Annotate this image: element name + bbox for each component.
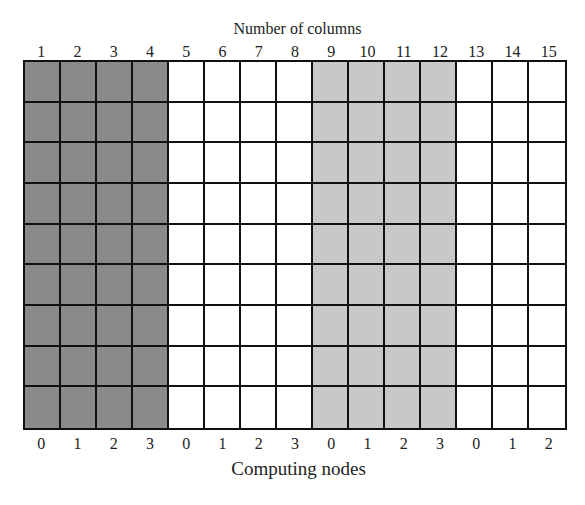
grid-cell [313,62,349,103]
grid-cell [205,62,241,103]
grid-cell [169,62,205,103]
grid-cell [205,143,241,184]
grid-cell [97,387,133,428]
grid-cell [205,387,241,428]
grid-cell [133,103,169,144]
grid-cell [349,62,385,103]
column-number-label: 5 [168,43,204,61]
grid-cell [25,103,61,144]
grid-cell [277,184,313,225]
grid-cell [529,306,565,347]
computing-node-label: 0 [168,435,204,453]
grid-cell [277,225,313,266]
grid-cell [25,347,61,388]
grid-cell [169,143,205,184]
grid-cell [97,62,133,103]
grid-cell [421,225,457,266]
grid-cell [493,103,529,144]
grid-cell [133,225,169,266]
column-number-label: 15 [531,43,567,61]
grid-cell [457,306,493,347]
grid-cell [205,225,241,266]
grid-cell [133,265,169,306]
grid-cell [493,265,529,306]
column-number-label: 13 [458,43,494,61]
grid-cell [385,225,421,266]
grid-cell [529,62,565,103]
grid-cell [421,143,457,184]
grid-cell [349,306,385,347]
grid-cell [205,347,241,388]
grid-cell [313,306,349,347]
computing-node-label: 1 [495,435,531,453]
grid-cell [457,184,493,225]
column-number-label: 8 [277,43,313,61]
grid-cell [277,103,313,144]
grid-cell [133,306,169,347]
grid-cell [349,225,385,266]
column-number-label: 3 [96,43,132,61]
grid-cell [421,184,457,225]
grid-cell [61,184,97,225]
grid-cell [457,265,493,306]
grid-cell [205,265,241,306]
grid-cell [61,387,97,428]
grid-cell [277,143,313,184]
grid-cell [493,225,529,266]
grid-cell [169,265,205,306]
grid-cell [61,103,97,144]
computing-node-label: 3 [132,435,168,453]
grid-cell [25,265,61,306]
grid-cell [349,103,385,144]
grid-cell [493,184,529,225]
grid-cell [421,265,457,306]
column-number-label: 9 [313,43,349,61]
grid-cell [277,265,313,306]
grid-cell [529,265,565,306]
grid-cell [241,265,277,306]
grid-cell [385,265,421,306]
grid-cell [169,103,205,144]
computing-node-label: 0 [313,435,349,453]
grid-cell [25,143,61,184]
computing-node-label: 2 [241,435,277,453]
grid-cell [133,143,169,184]
grid-cell [385,103,421,144]
column-node-grid [23,60,567,430]
grid-cell [457,103,493,144]
column-number-label: 6 [204,43,240,61]
grid-cell [313,387,349,428]
grid-cell [313,184,349,225]
grid-cell [385,184,421,225]
grid-cell [457,387,493,428]
column-number-label: 4 [132,43,168,61]
grid-cell [97,306,133,347]
grid-cell [529,103,565,144]
grid-cell [61,143,97,184]
grid-cell [313,347,349,388]
grid-cell [349,387,385,428]
grid-cell [169,306,205,347]
grid-cell [349,184,385,225]
grid-cell [313,143,349,184]
column-number-label: 11 [386,43,422,61]
computing-node-label: 0 [23,435,59,453]
grid-cell [25,184,61,225]
grid-cell [277,306,313,347]
grid-cell [169,225,205,266]
grid-cell [133,387,169,428]
grid-cell [457,62,493,103]
grid-cell [97,225,133,266]
grid-cell [421,62,457,103]
computing-node-label: 0 [458,435,494,453]
grid-cell [349,347,385,388]
grid-cell [385,387,421,428]
grid-cell [241,387,277,428]
grid-cell [529,143,565,184]
computing-node-label: 3 [422,435,458,453]
grid-cell [241,347,277,388]
grid-cell [97,265,133,306]
grid-cell [61,62,97,103]
grid-cell [529,347,565,388]
grid-cell [205,103,241,144]
